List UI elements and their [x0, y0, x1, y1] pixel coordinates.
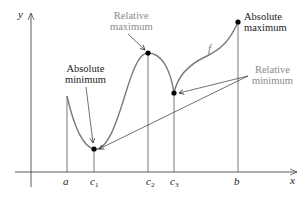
tick-b: b — [234, 175, 240, 187]
tick-c2: c2 — [146, 175, 154, 189]
x-axis-label: x — [290, 174, 295, 186]
curve-label-f: f — [208, 42, 211, 54]
arrow-absolute-minimum — [86, 87, 93, 143]
tick-c1: c1 — [90, 175, 98, 189]
label-relative-minimum: Relative minimum — [252, 64, 293, 86]
function-curve — [67, 22, 238, 149]
label-absolute-minimum: Absolute minimum — [65, 63, 106, 85]
arrow-relative-maximum — [128, 34, 145, 50]
y-axis-label: y — [18, 8, 23, 20]
tick-c3: c3 — [170, 175, 178, 189]
absolute-minimum-point — [91, 146, 96, 151]
relative-minimum-point — [171, 90, 176, 95]
absolute-maximum-point — [235, 19, 240, 24]
relative-maximum-point — [145, 50, 150, 55]
label-relative-maximum: Relative maximum — [110, 10, 153, 32]
label-absolute-maximum: Absolute maximum — [244, 11, 287, 33]
tick-a: a — [63, 175, 69, 187]
